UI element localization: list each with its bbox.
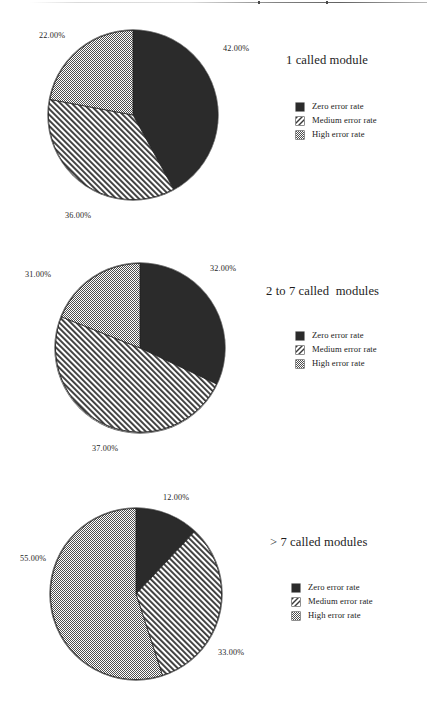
legend-item-medium-error: Medium error rate [296, 114, 377, 127]
pie-chart-3 [50, 508, 222, 680]
pie-label-medium-error-1: 36.00% [65, 211, 91, 220]
chart-title-3: > 7 called modules [270, 535, 367, 550]
pie-label-high-error-3: 55.00% [20, 554, 46, 563]
chart-legend-3: Zero error rate Medium error rate [292, 581, 373, 623]
chart-panel-3: 12.00% 55.00% 33.00% > 7 called modules … [0, 480, 427, 710]
chart-title-2: 2 to 7 called modules [266, 284, 379, 299]
legend-label-zero-error: Zero error rate [312, 102, 364, 111]
zero-error-swatch [292, 584, 300, 592]
pie-label-zero-error-1: 42.00% [223, 44, 249, 53]
chart-legend-1: Zero error rate Medium error rate [296, 100, 377, 142]
medium-error-swatch [296, 117, 304, 125]
pie-label-medium-error-2: 37.00% [92, 444, 118, 453]
legend-item-high-error: High error rate [292, 609, 373, 622]
legend-item-zero-error: Zero error rate [296, 329, 377, 342]
high-error-swatch [296, 360, 304, 368]
medium-error-swatch [292, 598, 300, 606]
legend-label-zero-error: Zero error rate [308, 583, 360, 592]
medium-error-swatch [296, 346, 304, 354]
legend-label-high-error: High error rate [312, 130, 365, 139]
pie-chart-2 [55, 263, 225, 433]
legend-label-high-error: High error rate [312, 359, 365, 368]
legend-item-medium-error: Medium error rate [296, 343, 377, 356]
legend-item-high-error: High error rate [296, 357, 377, 370]
legend-item-medium-error: Medium error rate [292, 595, 373, 608]
legend-label-zero-error: Zero error rate [312, 331, 364, 340]
high-error-swatch [296, 131, 304, 139]
pie-label-high-error-2: 31.00% [25, 270, 51, 279]
legend-item-zero-error: Zero error rate [296, 100, 377, 113]
legend-label-medium-error: Medium error rate [312, 345, 377, 354]
legend-item-high-error: High error rate [296, 128, 377, 141]
legend-item-zero-error: Zero error rate [292, 581, 373, 594]
pie-label-high-error-1: 22.00% [39, 31, 65, 40]
pie-label-zero-error-2: 32.00% [210, 264, 236, 273]
pie-svg-1 [48, 30, 218, 200]
chart-legend-2: Zero error rate Medium error rate [296, 329, 377, 371]
pie-svg-3 [50, 508, 222, 680]
pie-label-medium-error-3: 33.00% [218, 648, 244, 657]
pie-chart-1 [48, 30, 218, 200]
pie-label-zero-error-3: 12.00% [163, 493, 189, 502]
chart-title-1: 1 called module [286, 53, 368, 68]
pie-svg-2 [55, 263, 225, 433]
zero-error-swatch [296, 332, 304, 340]
chart-panel-1: 22.00% 42.00% 36.00% 1 called module Zer… [0, 0, 427, 240]
high-error-swatch [292, 612, 300, 620]
legend-label-high-error: High error rate [308, 611, 361, 620]
chart-panel-2: 31.00% 32.00% 37.00% 2 to 7 called modul… [0, 240, 427, 480]
zero-error-swatch [296, 103, 304, 111]
legend-label-medium-error: Medium error rate [312, 116, 377, 125]
legend-label-medium-error: Medium error rate [308, 597, 373, 606]
